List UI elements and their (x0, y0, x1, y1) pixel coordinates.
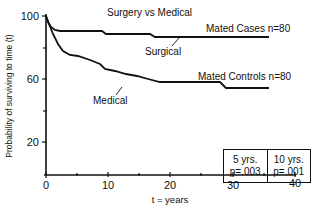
x-axis-label: t = years (152, 194, 189, 205)
x-tick-0: 0 (43, 179, 49, 191)
mated-cases-label: Mated Cases n=80 (206, 23, 291, 34)
y-tick-60: 60 (27, 73, 39, 85)
p-value-table: 5 yrs. p=.003 10 yrs. p=.001 (223, 149, 311, 183)
chart-title: Surgery vs Medical (107, 7, 192, 18)
p-value: p=.003 (230, 166, 261, 178)
p-cell-10yrs: 10 yrs. p=.001 (267, 150, 311, 182)
mated-controls-label: Mated Controls n=80 (198, 71, 292, 82)
surgical-label: Surgical (145, 46, 181, 57)
p-cell-5yrs: 5 yrs. p=.003 (224, 150, 267, 182)
x-tick-10: 10 (102, 179, 114, 191)
y-tick-100: 100 (21, 10, 39, 22)
medical-label: Medical (93, 95, 127, 106)
p-value: p=.001 (273, 166, 304, 178)
period-label: 10 yrs. (274, 154, 304, 166)
x-tick-20: 20 (164, 179, 176, 191)
surgical-leader (172, 38, 179, 46)
period-label: 5 yrs. (233, 154, 257, 166)
medical-leader (116, 87, 122, 95)
y-axis-label: Probability of surviving to time (t) (4, 34, 14, 157)
y-tick-20: 20 (27, 136, 39, 148)
